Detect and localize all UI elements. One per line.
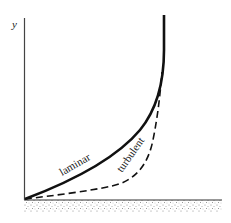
turbulent-curve xyxy=(25,72,162,199)
y-axis-label: y xyxy=(11,18,17,30)
laminar-label: laminar xyxy=(57,150,92,177)
laminar-curve xyxy=(25,15,164,199)
boundary-layer-diagram: y laminar turbulent xyxy=(0,0,231,223)
wall-surface xyxy=(24,200,222,212)
